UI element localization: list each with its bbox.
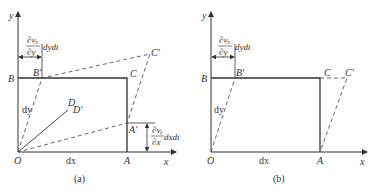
strain-diagram: ∂vₓ ∂y dydt ∂vᵧ ∂x dxdt y x O A B C C′ B… [0, 0, 373, 192]
diagonal-od [18, 110, 68, 152]
dim-dx: dx [66, 155, 76, 166]
dim-dy: dy [214, 104, 224, 115]
frac-top-num: ∂vₓ [27, 35, 38, 45]
point-b: B [201, 73, 207, 84]
caption-a: (a) [74, 173, 85, 185]
caption-b: (b) [273, 173, 285, 185]
rectangle-oabc [211, 78, 320, 152]
y-axis-label: y [8, 10, 14, 21]
frac-top-num: ∂vₓ [219, 35, 230, 45]
frac-top-den: ∂y [27, 47, 35, 57]
x-axis-label: x [359, 156, 365, 167]
point-c-prime: C′ [345, 67, 355, 78]
x-axis-label: x [163, 156, 169, 167]
y-axis-label: y [201, 10, 207, 21]
point-o: O [14, 155, 21, 166]
point-a-prime: A′ [128, 124, 138, 135]
rectangle-oabc [18, 78, 127, 152]
point-d-prime: D′ [72, 104, 83, 115]
point-c: C [324, 67, 331, 78]
frac-right-tail: dxdt [164, 132, 180, 142]
frac-top-tail: dydt [43, 42, 59, 52]
point-b-prime: B′ [33, 67, 42, 78]
point-o: O [207, 155, 214, 166]
panel-b: ∂vₓ ∂y dydt y x O A B C C′ B′ dy dx (b) [201, 10, 367, 185]
deformed-shape [211, 78, 235, 152]
dim-dy: dy [22, 104, 32, 115]
point-a: A [316, 155, 324, 166]
point-c: C [130, 68, 137, 79]
point-b-prime: B′ [236, 67, 245, 78]
point-b: B [8, 73, 14, 84]
frac-top-tail: dydt [235, 42, 251, 52]
panel-a: ∂vₓ ∂y dydt ∂vᵧ ∂x dxdt y x O A B C C′ B… [8, 10, 180, 185]
point-c-prime: C′ [151, 47, 161, 58]
diagram-svg: ∂vₓ ∂y dydt ∂vᵧ ∂x dxdt y x O A B C C′ B… [0, 0, 373, 192]
frac-right-den: ∂x [152, 137, 160, 147]
frac-top-den: ∂y [219, 47, 227, 57]
point-a: A [123, 155, 131, 166]
deformed-shape-right [320, 78, 347, 152]
dim-dx: dx [259, 155, 269, 166]
frac-right-num: ∂vᵧ [152, 125, 163, 135]
